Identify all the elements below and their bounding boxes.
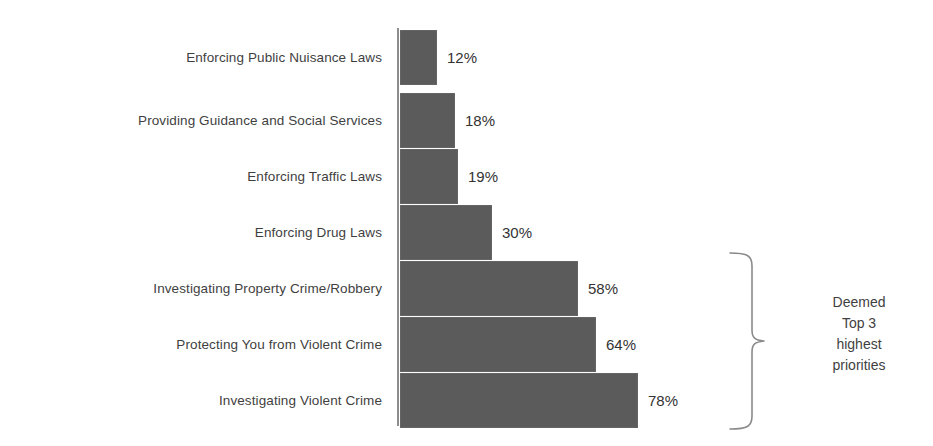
category-label: Investigating Violent Crime xyxy=(219,373,382,428)
bar-value-label: 64% xyxy=(606,317,636,372)
bar-value-label: 58% xyxy=(588,261,618,316)
plot-area: Enforcing Public Nuisance Laws 12% Provi… xyxy=(0,0,933,446)
bar-row: Enforcing Public Nuisance Laws 12% xyxy=(0,30,933,85)
annotation-text: Deemed Top 3 highest priorities xyxy=(800,292,918,376)
bar-segment[interactable] xyxy=(400,205,492,260)
category-label: Enforcing Public Nuisance Laws xyxy=(186,30,382,85)
bar-row: Providing Guidance and Social Services 1… xyxy=(0,93,933,148)
annotation-line-4: priorities xyxy=(800,355,918,376)
annotation-line-3: highest xyxy=(800,334,918,355)
bar-segment[interactable] xyxy=(400,30,437,85)
category-label: Providing Guidance and Social Services xyxy=(138,93,382,148)
category-label: Investigating Property Crime/Robbery xyxy=(153,261,382,316)
bar-row: Enforcing Traffic Laws 19% xyxy=(0,149,933,204)
bar-chart: Enforcing Public Nuisance Laws 12% Provi… xyxy=(0,0,933,446)
category-label: Enforcing Drug Laws xyxy=(255,205,382,260)
bar-segment[interactable] xyxy=(400,93,455,148)
bar-value-label: 19% xyxy=(468,149,498,204)
top-3-annotation: Deemed Top 3 highest priorities xyxy=(722,250,922,432)
curly-brace-icon xyxy=(722,250,792,432)
category-label: Enforcing Traffic Laws xyxy=(247,149,382,204)
bar-value-label: 30% xyxy=(502,205,532,260)
category-label: Protecting You from Violent Crime xyxy=(176,317,382,372)
annotation-line-2: Top 3 xyxy=(800,313,918,334)
bar-value-label: 18% xyxy=(465,93,495,148)
bar-segment[interactable] xyxy=(400,149,458,204)
bar-segment[interactable] xyxy=(400,373,638,428)
bar-value-label: 78% xyxy=(648,373,678,428)
annotation-line-1: Deemed xyxy=(800,292,918,313)
bar-value-label: 12% xyxy=(447,30,477,85)
bar-segment[interactable] xyxy=(400,317,596,372)
bar-segment[interactable] xyxy=(400,261,578,316)
